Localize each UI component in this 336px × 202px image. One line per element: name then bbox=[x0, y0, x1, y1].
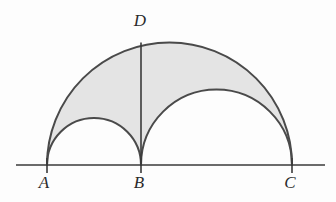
vertex-label-D: D bbox=[134, 12, 146, 29]
arbelos-shaded-region bbox=[47, 42, 292, 165]
vertex-label-B: B bbox=[134, 174, 144, 191]
geometry-figure: A B C D bbox=[0, 0, 336, 202]
vertex-label-A: A bbox=[39, 174, 49, 191]
vertex-label-C: C bbox=[284, 174, 295, 191]
